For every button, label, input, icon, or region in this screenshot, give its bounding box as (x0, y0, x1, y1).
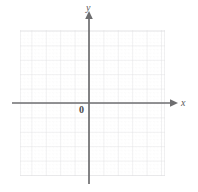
origin-label: 0 (79, 105, 84, 115)
x-axis-arrowhead-icon (170, 99, 178, 107)
x-axis-label: x (181, 98, 185, 108)
y-axis-label: y (86, 3, 90, 13)
coordinate-grid-svg (0, 0, 198, 192)
coordinate-plane-figure: y x 0 (0, 0, 198, 192)
